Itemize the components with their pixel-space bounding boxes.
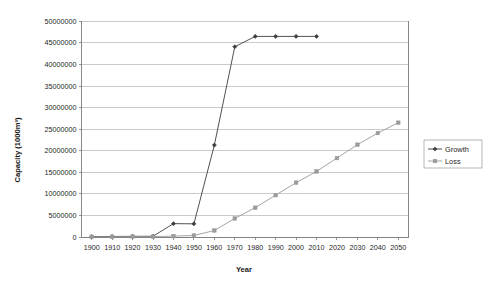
- y-tick-label: 30000000: [45, 103, 77, 112]
- data-point-marker: [253, 206, 257, 210]
- x-tick-label: 1960: [206, 243, 222, 252]
- x-tick-label: 1910: [104, 243, 120, 252]
- y-tick-label: 35000000: [45, 82, 77, 91]
- series-line: [92, 36, 317, 236]
- series-layer: [90, 34, 400, 238]
- x-tick-label: 2000: [288, 243, 304, 252]
- data-point-marker: [192, 234, 196, 238]
- x-tick-label: 1980: [247, 243, 263, 252]
- data-point-marker: [433, 159, 437, 163]
- data-point-marker: [233, 217, 237, 221]
- y-tick-label: 45000000: [45, 38, 77, 47]
- data-point-marker: [110, 235, 114, 239]
- data-point-marker: [131, 235, 135, 239]
- x-tick-label: 2050: [390, 243, 406, 252]
- data-point-marker: [172, 234, 176, 238]
- data-point-marker: [396, 121, 400, 125]
- data-point-marker: [253, 34, 257, 38]
- y-tick-label: 40000000: [45, 60, 77, 69]
- data-point-marker: [274, 193, 278, 197]
- y-tick-label: 50000000: [45, 17, 77, 26]
- y-tick-label: 15000000: [45, 168, 77, 177]
- x-tick-label: 1940: [165, 243, 181, 252]
- legend-item-label: Growth: [445, 145, 469, 154]
- data-point-marker: [213, 229, 217, 233]
- x-tick-label: 2020: [329, 243, 345, 252]
- x-tick-label: 1900: [84, 243, 100, 252]
- data-point-marker: [192, 222, 196, 226]
- line-chart: 0500000010000000150000002000000025000000…: [0, 0, 492, 286]
- x-tick-label: 2040: [370, 243, 386, 252]
- data-point-marker: [335, 156, 339, 160]
- legend-item-label: Loss: [445, 157, 461, 166]
- x-tick-label: 2030: [349, 243, 365, 252]
- series-line: [92, 123, 399, 237]
- y-tick-labels-group: 0500000010000000150000002000000025000000…: [45, 17, 82, 242]
- y-tick-label: 20000000: [45, 146, 77, 155]
- x-tick-labels-group: 1900191019201930194019501960197019801990…: [84, 243, 407, 252]
- y-tick-label: 0: [73, 233, 77, 242]
- x-tick-label: 1950: [186, 243, 202, 252]
- x-tick-label: 2010: [309, 243, 325, 252]
- data-point-marker: [212, 143, 216, 147]
- data-point-marker: [151, 235, 155, 239]
- x-tick-label: 1990: [268, 243, 284, 252]
- gridlines-group: [82, 21, 409, 237]
- data-point-marker: [314, 34, 318, 38]
- series-loss: [90, 121, 400, 239]
- y-tick-label: 25000000: [45, 125, 77, 134]
- data-point-marker: [294, 181, 298, 185]
- series-growth: [90, 34, 319, 238]
- data-point-marker: [315, 170, 319, 174]
- data-point-marker: [294, 34, 298, 38]
- x-tick-label: 1920: [125, 243, 141, 252]
- x-tick-label: 1930: [145, 243, 161, 252]
- x-axis-title: Year: [236, 265, 252, 274]
- data-point-marker: [274, 34, 278, 38]
- data-point-marker: [356, 143, 360, 147]
- legend[interactable]: GrowthLoss: [424, 140, 482, 168]
- chart-container: 0500000010000000150000002000000025000000…: [0, 0, 492, 286]
- x-tick-label: 1970: [227, 243, 243, 252]
- y-tick-label: 5000000: [49, 211, 77, 220]
- data-point-marker: [376, 131, 380, 135]
- y-tick-label: 10000000: [45, 189, 77, 198]
- data-point-marker: [90, 235, 94, 239]
- data-point-marker: [233, 45, 237, 49]
- data-point-marker: [171, 222, 175, 226]
- y-axis-title: Capacity (1000m³): [13, 117, 22, 182]
